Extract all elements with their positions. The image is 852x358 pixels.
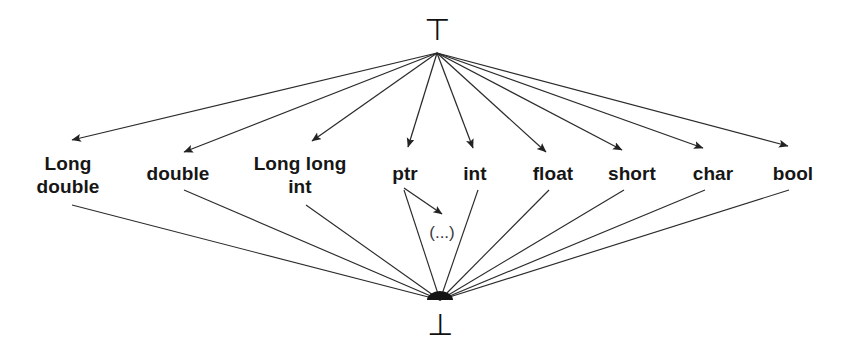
bottom-hub-blob [427, 291, 453, 300]
type-node-ptr: ptr [392, 162, 418, 185]
edge-top-to-double [184, 53, 437, 152]
edge-ptr-to-bottom [404, 190, 440, 300]
edge-ptr-to-ellipsis-group [404, 188, 442, 214]
type-node-long-long-int: Long long int [254, 152, 347, 198]
type-node-long-double: Long double [37, 152, 100, 198]
edge-top-to-int [437, 53, 473, 148]
type-node-float: float [533, 162, 574, 185]
edge-top-to-char [437, 53, 703, 148]
edge-char-to-bottom [440, 190, 705, 300]
edge-top-to-short [437, 53, 622, 150]
edge-ptr-to-ellipsis [404, 188, 442, 214]
edge-top-to-ptr [408, 53, 437, 147]
bottom-convergence-blob [427, 291, 453, 300]
edge-top-to-long-double [72, 53, 437, 140]
edge-double-to-bottom [184, 190, 440, 300]
edge-bool-to-bottom [440, 190, 789, 300]
edge-long-long-int-to-bottom [306, 205, 440, 300]
ellipsis-node-label: (...) [429, 224, 455, 241]
top-element-symbol: ⊤ [424, 15, 450, 45]
edge-top-to-long-long-int [312, 53, 437, 141]
edge-int-to-bottom [440, 190, 478, 300]
edges-from-top-group [72, 53, 788, 152]
type-node-short: short [608, 162, 656, 185]
edge-top-to-bool [437, 53, 788, 146]
type-node-char: char [693, 162, 734, 185]
type-lattice-diagram: ⊤ ⊥ (...) Long doubledoubleLong long int… [0, 0, 852, 358]
edge-long-double-to-bottom [72, 205, 440, 300]
type-node-double: double [147, 162, 210, 185]
type-node-int: int [463, 162, 487, 185]
bottom-element-symbol: ⊥ [427, 310, 453, 340]
type-node-bool: bool [773, 162, 814, 185]
